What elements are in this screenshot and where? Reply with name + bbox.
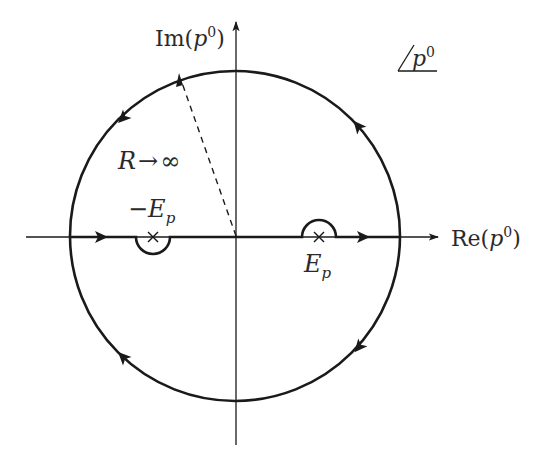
circle-arrow-upper-left-icon bbox=[114, 110, 132, 128]
contour-diagram: Im(p0) Re(p0) p0 R→∞ −Ep Ep bbox=[0, 0, 551, 462]
imaginary-axis-label: Im(p0) bbox=[155, 24, 225, 51]
radius-label: R→∞ bbox=[117, 147, 180, 175]
pole-positive-label: Ep bbox=[303, 250, 332, 282]
real-axis-label: Re(p0) bbox=[451, 224, 521, 251]
plane-tag: p0 bbox=[398, 44, 437, 71]
pole-negative-label: −Ep bbox=[128, 195, 176, 227]
radius-line bbox=[181, 80, 236, 236]
svg-text:p0: p0 bbox=[412, 44, 435, 71]
real-axis-contour bbox=[70, 220, 400, 254]
